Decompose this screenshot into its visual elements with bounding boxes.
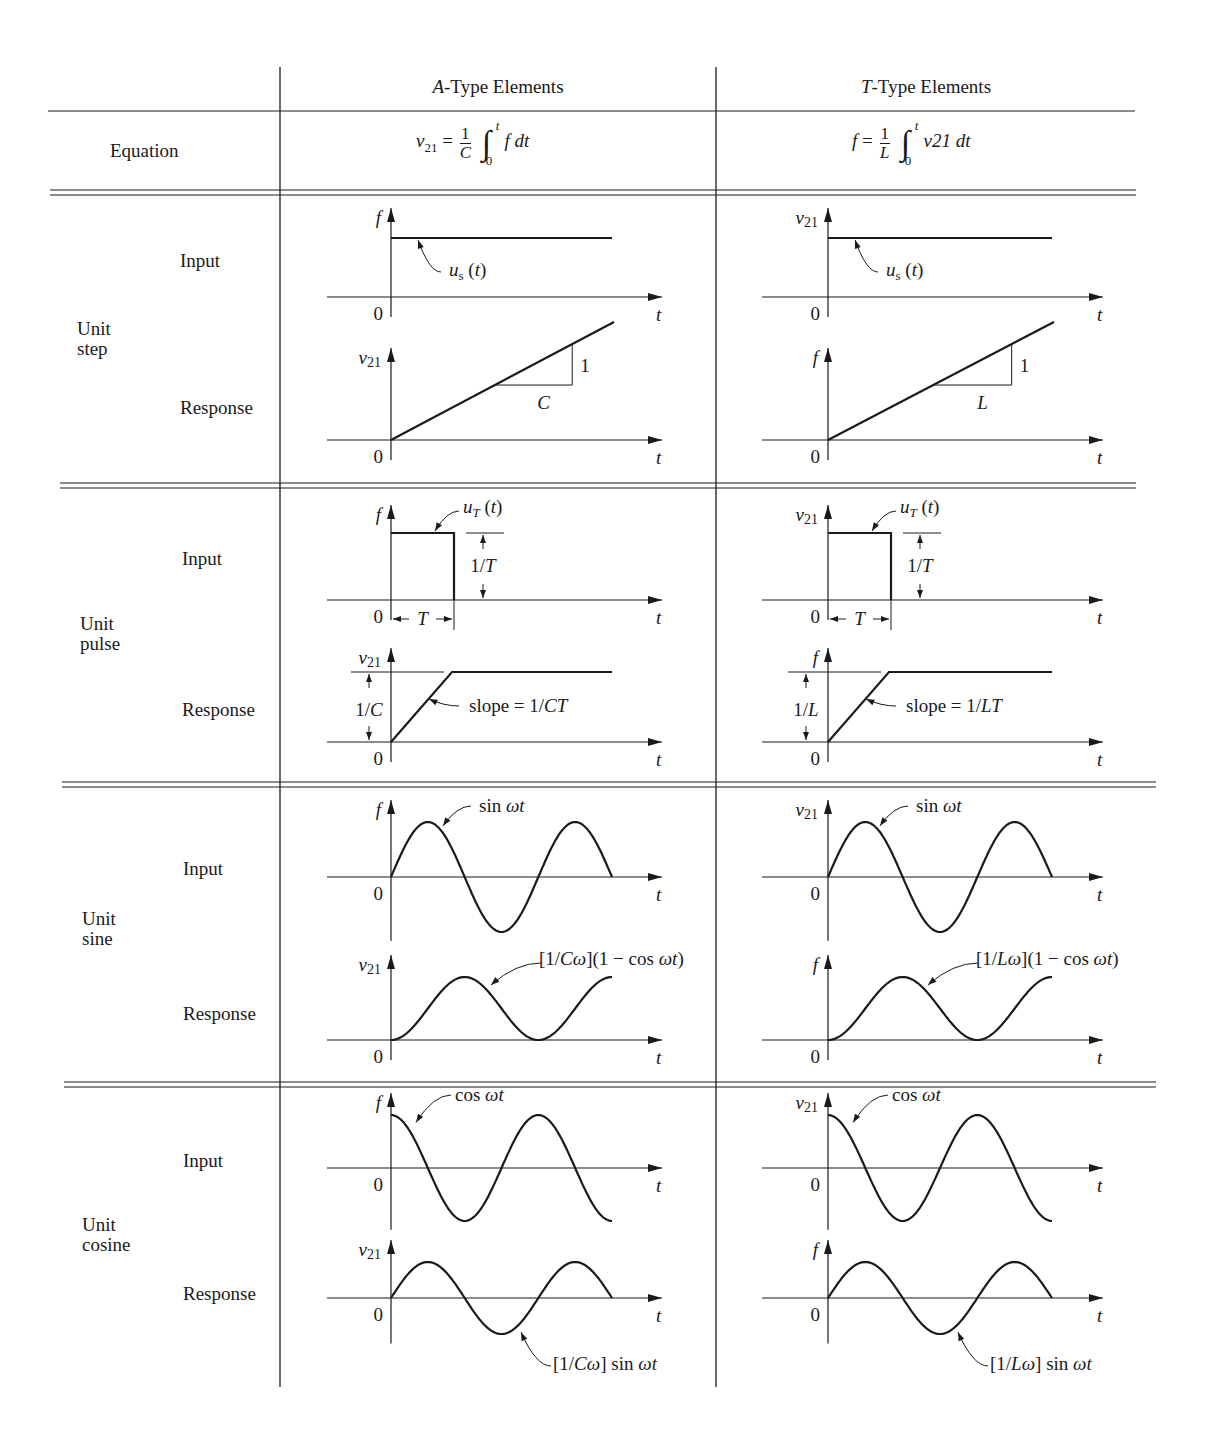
plot-unit-cosine-input-t-type-: v210tcos ωt	[762, 1084, 1103, 1230]
y-axis-arrow-icon	[824, 1240, 832, 1254]
response-table: A-Type Elements T-Type Elements Equation…	[0, 0, 1218, 1442]
curve-annotation: sin ωt	[479, 795, 525, 816]
y-axis-label: v21	[796, 504, 818, 527]
y-axis-arrow-icon	[824, 648, 832, 662]
y-axis-label: v21	[796, 799, 818, 822]
y-axis-label: f	[376, 1092, 384, 1113]
origin-label: 0	[374, 1046, 384, 1067]
plot-unit-step-response-a-type-: v210tC1	[327, 322, 662, 468]
x-axis-arrow-icon	[1089, 293, 1103, 301]
x-axis-arrow-icon	[648, 293, 662, 301]
plot-unit-sine-response-a-type-: v210t[1/Cω](1 − cos ωt)	[327, 948, 684, 1068]
dimension-arrow-icon	[917, 590, 923, 598]
x-axis-arrow-icon	[648, 1164, 662, 1172]
origin-label: 0	[811, 606, 821, 627]
y-axis-label: v21	[359, 1239, 381, 1262]
curve-annotation: uT (t)	[463, 496, 502, 520]
origin-label: 0	[374, 303, 384, 324]
x-axis-label: t	[656, 749, 662, 770]
one-minus-cos-curve	[828, 977, 1052, 1040]
dimension-arrow-icon	[366, 674, 372, 682]
origin-label: 0	[811, 1046, 821, 1067]
origin-label: 0	[374, 748, 384, 769]
leader-arrow-icon	[521, 1332, 527, 1341]
x-axis-arrow-icon	[1089, 1164, 1103, 1172]
x-axis-label: t	[1097, 607, 1103, 628]
origin-label: 0	[811, 303, 821, 324]
x-axis-label: t	[656, 447, 662, 468]
curve-annotation: cos ωt	[455, 1084, 505, 1105]
leader-arrow-icon	[435, 522, 442, 531]
origin-label: 0	[811, 883, 821, 904]
x-axis-label: t	[656, 607, 662, 628]
y-axis-arrow-icon	[387, 505, 395, 519]
y-axis-arrow-icon	[824, 348, 832, 362]
plot-unit-step-response-t-type-: f0tL1	[762, 322, 1103, 468]
pulse-curve	[391, 533, 454, 600]
y-axis-label: f	[813, 954, 821, 975]
y-axis-label: v21	[359, 347, 381, 370]
slope-rise-label: 1	[580, 355, 590, 376]
y-axis-label: f	[376, 207, 384, 228]
plot-unit-sine-input-a-type-: f0tsin ωt	[327, 795, 662, 941]
origin-label: 0	[811, 1304, 821, 1325]
leader-arrow-icon	[853, 1114, 860, 1123]
y-axis-label: v21	[796, 1092, 818, 1115]
origin-label: 0	[811, 1174, 821, 1195]
curve-annotation: [1/Lω] sin ωt	[990, 1353, 1093, 1374]
ramp-curve	[391, 322, 614, 440]
waveform-plots: f0tus (t)v210tC1v210tus (t)f0tL1f0t1/TTu…	[0, 0, 1218, 1442]
curve-annotation: us (t)	[449, 259, 486, 283]
y-axis-arrow-icon	[824, 505, 832, 519]
dimension-arrow-icon	[480, 535, 486, 543]
plot-unit-pulse-input-t-type-: v210t1/TTuT (t)	[762, 496, 1103, 630]
plot-unit-cosine-input-a-type-: f0tcos ωt	[327, 1084, 662, 1230]
pulse-height-label: 1/T	[470, 555, 497, 576]
pulse-width-label: T	[854, 608, 866, 629]
leader-arrow-icon	[416, 1114, 423, 1123]
x-axis-label: t	[1097, 749, 1103, 770]
pulse-height-label: 1/T	[907, 555, 934, 576]
x-axis-label: t	[656, 1305, 662, 1326]
response-height-label: 1/C	[355, 699, 383, 720]
x-axis-arrow-icon	[648, 1036, 662, 1044]
x-axis-arrow-icon	[1089, 1294, 1103, 1302]
leader-arrow-icon	[855, 240, 861, 249]
ramp-curve	[828, 322, 1054, 440]
x-axis-arrow-icon	[648, 738, 662, 746]
plot-unit-step-input-t-type-: v210tus (t)	[762, 207, 1103, 325]
dimension-arrow-icon	[393, 616, 401, 622]
y-axis-arrow-icon	[387, 800, 395, 814]
dimension-arrow-icon	[366, 732, 372, 740]
x-axis-label: t	[1097, 447, 1103, 468]
origin-label: 0	[374, 446, 384, 467]
y-axis-label: f	[813, 647, 821, 668]
y-axis-arrow-icon	[387, 1240, 395, 1254]
y-axis-label: f	[813, 1239, 821, 1260]
slope-rise-label: 1	[1020, 355, 1029, 376]
curve-annotation: uT (t)	[900, 496, 939, 520]
leader-arrow-icon	[872, 522, 879, 531]
y-axis-arrow-icon	[387, 1093, 395, 1107]
leader-arrow-icon	[928, 977, 936, 985]
plot-unit-pulse-response-a-type-: v210t1/Cslope = 1/CT	[327, 647, 662, 770]
origin-label: 0	[811, 748, 821, 769]
y-axis-label: v21	[359, 647, 381, 670]
curve-annotation: [1/Cω] sin ωt	[553, 1353, 658, 1374]
y-axis-label: f	[813, 347, 821, 368]
plot-unit-sine-response-t-type-: f0t[1/Lω](1 − cos ωt)	[762, 948, 1119, 1068]
x-axis-arrow-icon	[1089, 1036, 1103, 1044]
curve-annotation: cos ωt	[892, 1084, 942, 1105]
curve-annotation: sin ωt	[916, 795, 962, 816]
plot-unit-cosine-response-t-type-: f0t[1/Lω] sin ωt	[762, 1239, 1103, 1374]
x-axis-label: t	[1097, 1175, 1103, 1196]
x-axis-label: t	[1097, 1305, 1103, 1326]
pulse-width-label: T	[417, 608, 429, 629]
origin-label: 0	[374, 883, 384, 904]
origin-label: 0	[374, 1174, 384, 1195]
origin-label: 0	[811, 446, 821, 467]
origin-label: 0	[374, 1304, 384, 1325]
curve-annotation: [1/Cω](1 − cos ωt)	[539, 948, 684, 970]
y-axis-arrow-icon	[387, 648, 395, 662]
y-axis-arrow-icon	[824, 1093, 832, 1107]
